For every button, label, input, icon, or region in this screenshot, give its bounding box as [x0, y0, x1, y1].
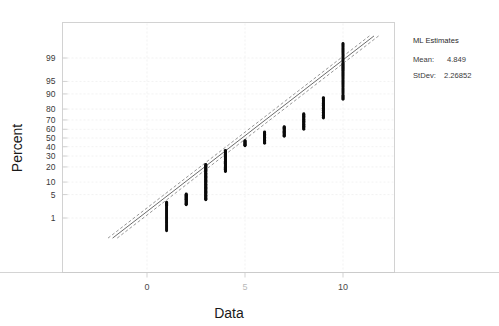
data-point [165, 201, 168, 204]
y-tick-label-50: 50 [46, 133, 56, 143]
chart-canvas: 151020304050607080909599 0510 Percent Da… [0, 0, 499, 326]
data-point [342, 42, 345, 45]
data-point [302, 112, 305, 115]
y-tick-label-1: 1 [51, 213, 56, 223]
data-point [263, 130, 266, 133]
legend-stdev-value: 2.26852 [444, 71, 471, 80]
data-point [224, 149, 227, 152]
y-tick-label-99: 99 [46, 53, 56, 63]
y-tick-label-40: 40 [46, 142, 56, 152]
x-tick-label-0: 0 [144, 282, 149, 292]
legend-mean-label: Mean: [413, 55, 434, 64]
y-tick-label-95: 95 [46, 76, 56, 86]
y-tick-label-5: 5 [51, 190, 56, 200]
data-point [185, 192, 188, 195]
x-axis-title: Data [214, 305, 244, 321]
data-point [204, 163, 207, 166]
data-point [322, 96, 325, 99]
data-point [244, 139, 247, 142]
y-tick-label-10: 10 [46, 177, 56, 187]
y-tick-label-60: 60 [46, 124, 56, 134]
legend-mean-value: 4.849 [447, 55, 466, 64]
x-tick-label-10: 10 [338, 282, 348, 292]
legend-title: ML Estimates [413, 36, 459, 45]
x-tick-label-5: 5 [242, 282, 247, 292]
y-axis-title: Percent [9, 124, 25, 172]
y-tick-label-30: 30 [46, 151, 56, 161]
y-tick-label-70: 70 [46, 115, 56, 125]
y-tick-label-90: 90 [46, 89, 56, 99]
y-tick-label-20: 20 [46, 162, 56, 172]
probability-plot-figure: 151020304050607080909599 0510 Percent Da… [0, 0, 499, 326]
data-point [283, 125, 286, 128]
figure-background [0, 0, 499, 326]
legend-stdev-label: StDev: [413, 71, 436, 80]
y-tick-label-80: 80 [46, 104, 56, 114]
